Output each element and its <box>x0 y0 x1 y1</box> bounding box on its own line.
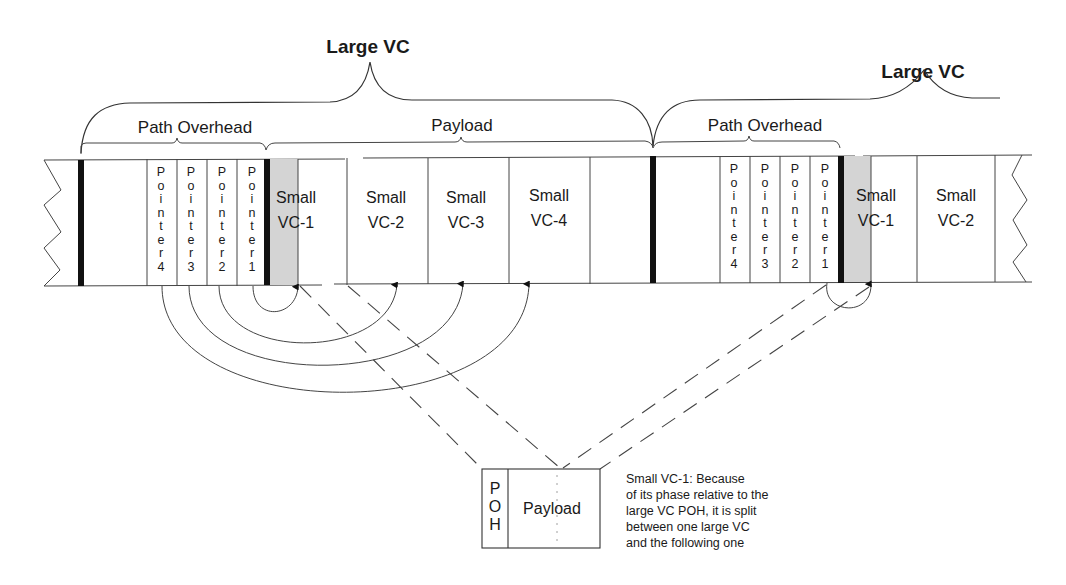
pointer-label-char: P <box>248 165 256 179</box>
pointer-label-char: o <box>792 176 799 190</box>
payload-label: Payload <box>431 116 492 135</box>
pointer-label-char: i <box>764 189 767 203</box>
small-vc-4-line2: VC-4 <box>531 212 568 229</box>
poh-letter-o: O <box>489 498 501 515</box>
pointer-label-char: n <box>219 206 226 220</box>
strip-top-left <box>44 159 345 160</box>
frame2-small-vc-1-line2: VC-1 <box>858 212 895 229</box>
pointer-label-char: e <box>219 233 226 247</box>
pointer-label-char: n <box>158 206 165 220</box>
note-line-3: large VC POH, it is split <box>626 504 757 518</box>
pointer-label-char: t <box>220 219 224 233</box>
pointer-label-char: P <box>218 165 226 179</box>
strip-top-mid <box>363 156 855 158</box>
pointer-label-char: t <box>250 219 254 233</box>
poh-letter-p: P <box>490 480 501 497</box>
frame2-small-vc-1-line1: Small <box>856 187 896 204</box>
left-break-zigzag <box>44 160 61 286</box>
pointer-label-char: t <box>732 216 736 230</box>
pointer-label-char: r <box>732 243 736 257</box>
detail-payload-label: Payload <box>523 500 581 517</box>
pointer-label-char: i <box>824 189 827 203</box>
pointer-label-char: i <box>733 189 736 203</box>
pointer-label-char: P <box>791 162 799 176</box>
right-break-zigzag <box>1012 155 1027 282</box>
pointer-label-char: 1 <box>822 257 829 271</box>
poh-letter-h: H <box>489 516 501 533</box>
pointer-label-char: P <box>730 162 738 176</box>
pointer-label-char: e <box>188 233 195 247</box>
pointer-label-char: 2 <box>219 260 226 274</box>
strip-top-right <box>863 155 1032 156</box>
note-line-2: of its phase relative to the <box>626 488 768 502</box>
pointer-label-char: 2 <box>792 257 799 271</box>
pointer-label-char: n <box>188 206 195 220</box>
pointer-label-char: t <box>189 219 193 233</box>
pointer-label-char: r <box>793 243 797 257</box>
small-vc-2-line2: VC-2 <box>368 214 405 231</box>
large-vc-brace-1 <box>81 62 653 153</box>
pointer-label-char: e <box>792 230 799 244</box>
pointer-label-char: o <box>219 179 226 193</box>
sdh-vc-diagram: Large VC Large VC Path Overhead Payload … <box>0 0 1066 585</box>
pointer-label-char: r <box>823 243 827 257</box>
pointer-label-char: n <box>792 203 799 217</box>
pointer-label-char: r <box>220 246 224 260</box>
pointer-label-char: P <box>157 165 165 179</box>
small-vc-1-line2: VC-1 <box>278 214 315 231</box>
frame2-small-vc-2-line1: Small <box>936 187 976 204</box>
small-vc-4-line1: Small <box>529 187 569 204</box>
frame2-small-vc-2-line2: VC-2 <box>938 212 975 229</box>
pointer-label-char: i <box>221 192 224 206</box>
pointer-label-char: r <box>763 243 767 257</box>
pointer-label-char: 1 <box>249 260 256 274</box>
pointer-label-char: e <box>762 230 769 244</box>
pointer-label-char: n <box>762 203 769 217</box>
pointer3-arc <box>189 284 463 365</box>
pointer-label-char: i <box>160 192 163 206</box>
pointer-label-char: o <box>249 179 256 193</box>
pointer-label-char: o <box>188 179 195 193</box>
note-line-5: and the following one <box>626 536 744 550</box>
payload-brace <box>266 137 653 150</box>
note-line-4: between one large VC <box>626 520 750 534</box>
pointer-label-char: 4 <box>158 260 165 274</box>
pointer-label-char: n <box>731 203 738 217</box>
pointer-label-char: e <box>249 233 256 247</box>
pointer-label-char: t <box>763 216 767 230</box>
pointer-label-char: n <box>822 203 829 217</box>
small-vc-2-line1: Small <box>366 189 406 206</box>
pointer-label-char: r <box>189 246 193 260</box>
pointer-label-char: 3 <box>188 260 195 274</box>
pointer-label-char: e <box>822 230 829 244</box>
pointer-label-char: o <box>731 176 738 190</box>
pointer-label-char: P <box>187 165 195 179</box>
small-vc-3-line1: Small <box>446 189 486 206</box>
pointer1-arc <box>253 286 298 312</box>
pointer-label-char: 4 <box>731 257 738 271</box>
pointer-label-char: e <box>731 230 738 244</box>
pointer-label-char: o <box>158 179 165 193</box>
pointer-label-char: P <box>761 162 769 176</box>
small-vc-3-line2: VC-3 <box>448 214 485 231</box>
projection-line <box>600 287 869 469</box>
note-line-1: Small VC-1: Because <box>626 472 745 486</box>
pointer-label-char: t <box>823 216 827 230</box>
pointer-label-char: e <box>158 233 165 247</box>
path-overhead-brace-1 <box>81 138 266 154</box>
projection-line <box>563 285 826 468</box>
pointer4-arc <box>162 284 529 392</box>
pointer-label-char: i <box>251 192 254 206</box>
pointer-label-char: t <box>159 219 163 233</box>
pointer-label-char: i <box>794 189 797 203</box>
strip-bottom-left <box>44 285 322 286</box>
large-vc-label-1: Large VC <box>326 36 410 57</box>
pointer-label-char: o <box>762 176 769 190</box>
pointer-label-char: P <box>821 162 829 176</box>
path-overhead-label-1: Path Overhead <box>138 118 252 137</box>
pointer-label-char: i <box>190 192 193 206</box>
pointer-label-char: o <box>822 176 829 190</box>
small-vc-1-line1: Small <box>276 189 316 206</box>
pointer-label-char: r <box>159 246 163 260</box>
path-overhead-brace-2 <box>653 136 840 148</box>
